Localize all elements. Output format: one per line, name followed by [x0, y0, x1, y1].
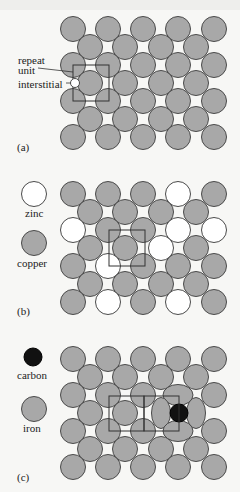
- metal-atom: [131, 290, 156, 315]
- panel-tag-a: (a): [17, 142, 29, 153]
- metal-atom: [131, 89, 156, 114]
- metal-atom: [131, 17, 156, 42]
- zinc-atom: [202, 218, 227, 243]
- metal-atom: [202, 254, 227, 279]
- panel-a-pure-metal-lattice: [38, 17, 227, 150]
- metal-atom: [184, 272, 209, 297]
- legend-iron-label: iron: [23, 423, 41, 434]
- top-strip: [0, 0, 240, 10]
- metal-atom: [184, 35, 209, 60]
- metal-atom: [166, 455, 191, 480]
- interstitial-site: [71, 79, 80, 88]
- metal-atom: [202, 383, 227, 408]
- legend-zinc-swatch: [22, 182, 47, 207]
- metal-atom: [184, 71, 209, 96]
- legend-copper-swatch: [22, 231, 47, 256]
- metal-atom: [166, 125, 191, 150]
- panel-tag-c: (c): [17, 472, 29, 483]
- metal-atom: [96, 455, 121, 480]
- metal-atom: [96, 125, 121, 150]
- legend-carbon-swatch: [24, 348, 42, 366]
- zinc-atom: [166, 290, 191, 315]
- metal-atom: [202, 419, 227, 444]
- metal-atom: [202, 182, 227, 207]
- legend-iron-swatch: [22, 397, 47, 422]
- metal-atom: [131, 347, 156, 372]
- metal-atom: [184, 236, 209, 261]
- zinc-atom: [96, 290, 121, 315]
- metal-atom: [202, 347, 227, 372]
- annotation-interstitial: interstitial: [18, 79, 63, 90]
- metal-atom: [202, 455, 227, 480]
- metal-atom: [61, 125, 86, 150]
- metal-atom: [202, 53, 227, 78]
- panel-tag-b: (b): [17, 306, 30, 317]
- metal-atom: [202, 290, 227, 315]
- metal-atom: [202, 89, 227, 114]
- metal-atom: [131, 182, 156, 207]
- crystal-lattice-diagram: [0, 0, 240, 492]
- metal-atom: [61, 290, 86, 315]
- metal-atom: [131, 383, 156, 408]
- metal-atom: [184, 107, 209, 132]
- legend-zinc-label: zinc: [25, 208, 43, 219]
- metal-atom: [61, 455, 86, 480]
- metal-atom: [184, 365, 209, 390]
- legend-copper-label: copper: [17, 258, 47, 269]
- metal-atom: [202, 17, 227, 42]
- metal-atom: [202, 125, 227, 150]
- metal-atom: [131, 125, 156, 150]
- metal-atom: [131, 53, 156, 78]
- metal-atom: [131, 455, 156, 480]
- legend-carbon-label: carbon: [17, 370, 47, 381]
- metal-atom: [184, 437, 209, 462]
- annotation-unit: unit: [18, 65, 35, 76]
- metal-atom: [184, 200, 209, 225]
